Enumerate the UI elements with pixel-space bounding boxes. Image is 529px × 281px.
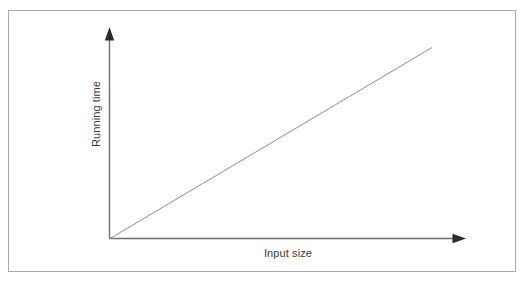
y-axis-label: Running time — [90, 81, 103, 147]
x-axis-label: Input size — [264, 247, 312, 260]
figure-frame — [8, 10, 516, 272]
